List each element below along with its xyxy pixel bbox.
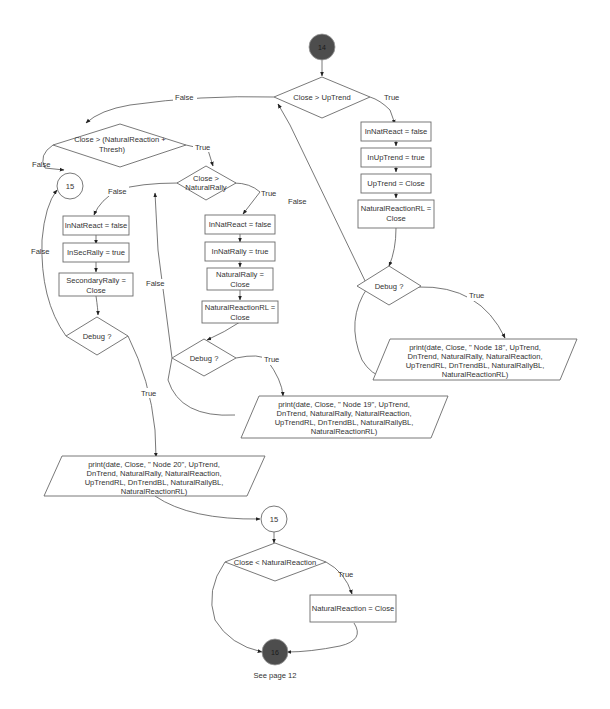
box-insecrally-true: InSecRally = true	[63, 243, 129, 262]
edge-b4-debug	[207, 322, 240, 340]
label-debug-a-true: True	[469, 291, 484, 300]
label-debug-c-true: True	[141, 389, 156, 398]
label-debug-b-true: True	[264, 355, 279, 364]
svg-text:NaturalReactionRL =: NaturalReactionRL =	[205, 303, 276, 312]
start-connector-14: 14	[309, 34, 335, 60]
label-uptrend-true: True	[384, 93, 399, 102]
svg-text:Close: Close	[386, 214, 405, 223]
svg-text:14: 14	[318, 44, 326, 51]
edge-nr-close-to-end	[287, 623, 357, 652]
box-nrrl-close-middle: NaturalReactionRL = Close	[202, 301, 278, 323]
svg-text:DnTrend, NaturalRally, Natural: DnTrend, NaturalRally, NaturalReaction,	[86, 469, 221, 478]
print-node-20: print(date, Close, " Node 20", UpTrend, …	[44, 456, 265, 496]
svg-text:Thresh): Thresh)	[99, 145, 126, 154]
edge-a4-debug	[389, 228, 396, 266]
print-node-18: print(date, Close, " Node 18", UpTrend, …	[373, 339, 577, 380]
box-uptrend-close: UpTrend = Close	[361, 174, 431, 193]
label-debug-b-false: False	[146, 279, 165, 288]
svg-text:InNatReact = false: InNatReact = false	[365, 127, 428, 136]
label-natrally-false: False	[108, 187, 127, 196]
svg-text:print(date, Close, " Node 18",: print(date, Close, " Node 18", UpTrend,	[409, 343, 541, 352]
connector-15-middle: 15	[261, 506, 287, 532]
box-naturalrally-close: NaturalRally = Close	[207, 268, 273, 290]
edge-natrally-true	[234, 183, 260, 214]
print-node-19: print(date, Close, " Node 19", UpTrend, …	[241, 396, 448, 438]
svg-text:Close >: Close >	[193, 174, 220, 183]
decision-close-lt-naturalreaction: Close < NaturalReaction	[225, 543, 326, 581]
svg-text:DnTrend, NaturalRally, Natural: DnTrend, NaturalRally, NaturalReaction,	[276, 409, 411, 418]
svg-text:Close < NaturalReaction: Close < NaturalReaction	[234, 558, 317, 567]
end-connector-16: 16	[262, 639, 288, 665]
svg-text:UpTrendRL, DnTrendBL, NaturalR: UpTrendRL, DnTrendBL, NaturalRallyBL,	[85, 478, 224, 487]
svg-text:print(date, Close, " Node 20",: print(date, Close, " Node 20", UpTrend,	[88, 460, 220, 469]
svg-text:SecondaryRally =: SecondaryRally =	[66, 276, 126, 285]
edge-debug-a-true	[418, 287, 505, 338]
svg-text:NaturalReactionRL): NaturalReactionRL)	[121, 487, 188, 496]
box-innatrally-true: InNatRally = true	[205, 242, 275, 261]
decision-close-gt-uptrend: Close > UpTrend	[274, 77, 370, 118]
label-debug-a-false: False	[288, 197, 307, 206]
label-nrthresh-true: True	[195, 143, 210, 152]
decision-debug-left: Debug ?	[66, 317, 128, 355]
svg-text:NaturalRally =: NaturalRally =	[216, 270, 264, 279]
edge-nr-false	[212, 562, 262, 652]
see-page-note: See page 12	[253, 671, 296, 680]
box-nrrl-close-right: NaturalReactionRL = Close	[358, 200, 434, 228]
svg-text:15: 15	[270, 515, 278, 524]
label-natrally-true: True	[261, 189, 276, 198]
box-inuptrend-true: InUpTrend = true	[361, 148, 431, 167]
decision-close-gt-naturalrally: Close > NaturalRally	[177, 166, 236, 200]
svg-text:Debug ?: Debug ?	[375, 282, 404, 291]
box-innatreact-false-right: InNatReact = false	[361, 122, 431, 141]
box-naturalreaction-close: NaturalReaction = Close	[310, 595, 396, 622]
svg-text:NaturalReactionRL =: NaturalReactionRL =	[361, 204, 432, 213]
svg-text:NaturalReaction = Close: NaturalReaction = Close	[312, 604, 395, 613]
svg-text:Close > (NaturalReaction +: Close > (NaturalReaction +	[74, 135, 166, 144]
flowchart-canvas: False True False True False True False F…	[0, 0, 610, 709]
svg-text:Close: Close	[86, 286, 105, 295]
svg-text:InNatReact = false: InNatReact = false	[209, 220, 272, 229]
svg-text:16: 16	[271, 649, 279, 656]
label-debug-c-false: False	[31, 247, 50, 256]
svg-text:15: 15	[66, 182, 74, 191]
svg-text:InNatRally = true: InNatRally = true	[212, 247, 269, 256]
svg-text:NaturalRally: NaturalRally	[185, 183, 227, 192]
connector-15-top: 15	[57, 173, 83, 199]
svg-text:UpTrend = Close: UpTrend = Close	[367, 179, 424, 188]
svg-text:InUpTrend = true: InUpTrend = true	[367, 153, 424, 162]
svg-text:Debug ?: Debug ?	[83, 332, 112, 341]
svg-text:DnTrend, NaturalRally, Natural: DnTrend, NaturalRally, NaturalReaction,	[407, 352, 542, 361]
label-uptrend-false: False	[175, 93, 194, 102]
label-nrthresh-false: False	[32, 160, 51, 169]
svg-text:UpTrendRL, DnTrendBL, NaturalR: UpTrendRL, DnTrendBL, NaturalRallyBL,	[406, 361, 545, 370]
svg-text:NaturalReactionRL): NaturalReactionRL)	[442, 370, 509, 379]
box-innatreact-false-middle: InNatReact = false	[205, 215, 275, 234]
svg-text:InSecRally = true: InSecRally = true	[67, 248, 125, 257]
decision-debug-right: Debug ?	[357, 266, 421, 305]
svg-text:UpTrendRL, DnTrendBL, NaturalR: UpTrendRL, DnTrendBL, NaturalRallyBL,	[275, 418, 414, 427]
edge-debug-b-false	[155, 193, 172, 358]
svg-text:InNatReact = false: InNatReact = false	[65, 221, 128, 230]
edge-debug-c-false	[42, 190, 66, 336]
box-secondaryrally-close: SecondaryRally = Close	[59, 273, 133, 296]
decision-debug-middle: Debug ?	[172, 339, 236, 376]
edge-debug-a-false	[278, 104, 368, 287]
svg-text:Debug ?: Debug ?	[190, 354, 219, 363]
svg-text:Close: Close	[230, 313, 249, 322]
label-nr-true: True	[338, 570, 353, 579]
decision-close-gt-nr-thresh: Close > (NaturalReaction + Thresh)	[53, 124, 186, 167]
box-innatreact-false-left: InNatReact = false	[63, 216, 129, 235]
svg-text:Close: Close	[230, 280, 249, 289]
edge-natrally-false	[94, 183, 178, 215]
edge-c3-debug	[96, 296, 98, 315]
svg-text:NaturalReactionRL): NaturalReactionRL)	[311, 427, 378, 436]
edge-print20-to-15	[155, 496, 260, 519]
svg-text:print(date, Close, " Node 19",: print(date, Close, " Node 19", UpTrend,	[278, 400, 410, 409]
svg-text:Close > UpTrend: Close > UpTrend	[293, 93, 350, 102]
